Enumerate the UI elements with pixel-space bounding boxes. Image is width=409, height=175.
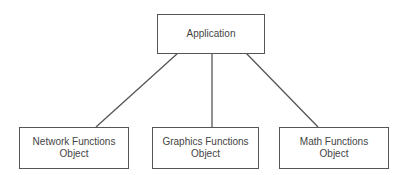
application-node: Application (157, 14, 265, 54)
network-label-line2: Object (60, 148, 89, 160)
connector-network (96, 53, 178, 127)
graphics-functions-node: Graphics Functions Object (152, 127, 259, 169)
math-functions-node: Math Functions Object (279, 127, 389, 169)
math-label-line2: Object (320, 148, 349, 160)
graphics-label-line1: Graphics Functions (162, 136, 248, 148)
connector-math (246, 53, 318, 127)
graphics-label-line2: Object (191, 148, 220, 160)
application-label: Application (187, 28, 236, 40)
math-label-line1: Math Functions (300, 136, 368, 148)
network-functions-node: Network Functions Object (19, 127, 129, 169)
network-label-line1: Network Functions (33, 136, 116, 148)
